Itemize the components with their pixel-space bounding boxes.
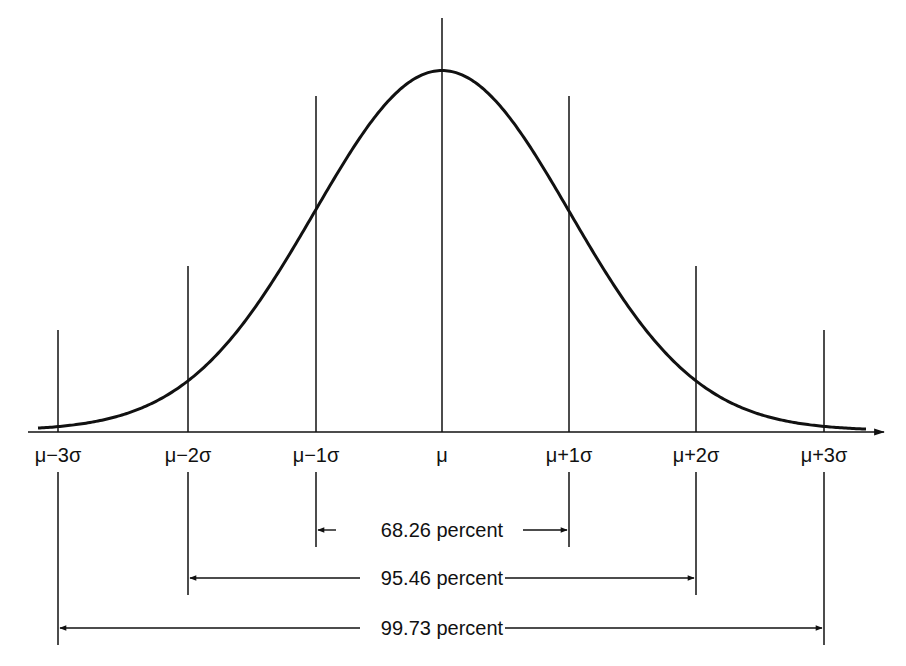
tick-label-p1: μ+1σ	[546, 444, 593, 466]
bracket-one-sigma: 68.26 percent	[318, 519, 567, 541]
tick-label-m1: μ−1σ	[293, 444, 340, 466]
tick-label-p3: μ+3σ	[801, 444, 848, 466]
tick-label-mu: μ	[436, 444, 448, 466]
tick-label-p2: μ+2σ	[673, 444, 720, 466]
sigma-lines	[58, 18, 824, 432]
bracket-label-three-sigma: 99.73 percent	[381, 617, 504, 639]
bracket-three-sigma: 99.73 percent	[60, 617, 822, 639]
bracket-label-two-sigma: 95.46 percent	[381, 567, 504, 589]
normal-curve	[38, 71, 866, 430]
bracket-label-one-sigma: 68.26 percent	[381, 519, 504, 541]
normal-distribution-diagram: μ−3σ μ−2σ μ−1σ μ μ+1σ μ+2σ μ+3σ 68.26 pe…	[0, 0, 906, 666]
bracket-two-sigma: 95.46 percent	[190, 567, 694, 589]
tick-label-m3: μ−3σ	[35, 444, 82, 466]
tick-label-m2: μ−2σ	[165, 444, 212, 466]
axis-labels: μ−3σ μ−2σ μ−1σ μ μ+1σ μ+2σ μ+3σ	[35, 444, 848, 466]
